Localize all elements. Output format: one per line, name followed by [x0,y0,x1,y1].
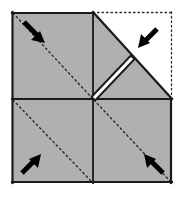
diagram-container: Paper folding step diagram [0,0,184,197]
paper-folding-diagram: Paper folding step diagram [0,0,184,197]
